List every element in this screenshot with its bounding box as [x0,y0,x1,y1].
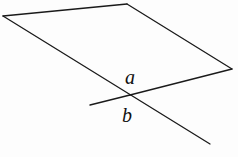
line-a [130,69,232,95]
diagram-canvas: a b [0,0,238,157]
diagram-svg: a b [0,0,238,157]
diagonal-line [3,16,210,144]
label-b: b [122,104,132,126]
plane-top-edge [3,4,127,16]
label-a: a [125,66,135,88]
plane-right-edge [127,4,232,69]
